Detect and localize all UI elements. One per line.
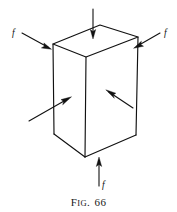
force-bottom-arrow	[96, 157, 101, 186]
left-face	[53, 44, 86, 157]
cuboid-faces	[53, 25, 138, 157]
force-left-upper-arrow	[22, 33, 52, 49]
force-label-left: f	[12, 28, 16, 38]
force-label-right: f	[164, 28, 168, 38]
caption-separator: .	[87, 196, 90, 208]
force-left-upper-head	[41, 43, 51, 49]
right-face	[85, 37, 138, 157]
block-force-diagram: f f f	[0, 0, 177, 212]
force-label-bottom: f	[102, 180, 106, 190]
caption-number: 66	[95, 196, 107, 208]
caption-prefix-rest: IG	[77, 198, 87, 208]
figure-container: f f f FIG. 66	[0, 0, 177, 212]
figure-caption: FIG. 66	[0, 192, 177, 210]
